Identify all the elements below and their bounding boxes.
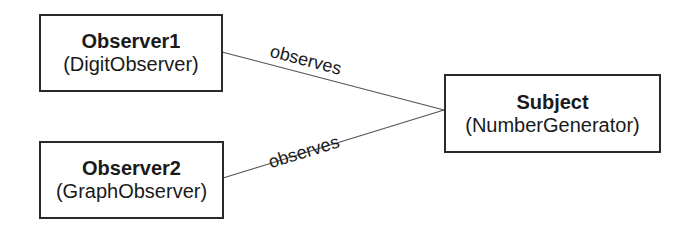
- node-class: (DigitObserver): [63, 53, 199, 76]
- node-class: (NumberGenerator): [465, 114, 640, 137]
- subject-node: Subject (NumberGenerator): [444, 74, 661, 153]
- observer2-node: Observer2 (GraphObserver): [39, 141, 224, 219]
- node-class: (GraphObserver): [56, 180, 207, 203]
- node-name: Subject: [516, 91, 588, 114]
- observer1-node: Observer1 (DigitObserver): [39, 14, 223, 92]
- node-name: Observer1: [82, 30, 181, 53]
- node-name: Observer2: [82, 157, 181, 180]
